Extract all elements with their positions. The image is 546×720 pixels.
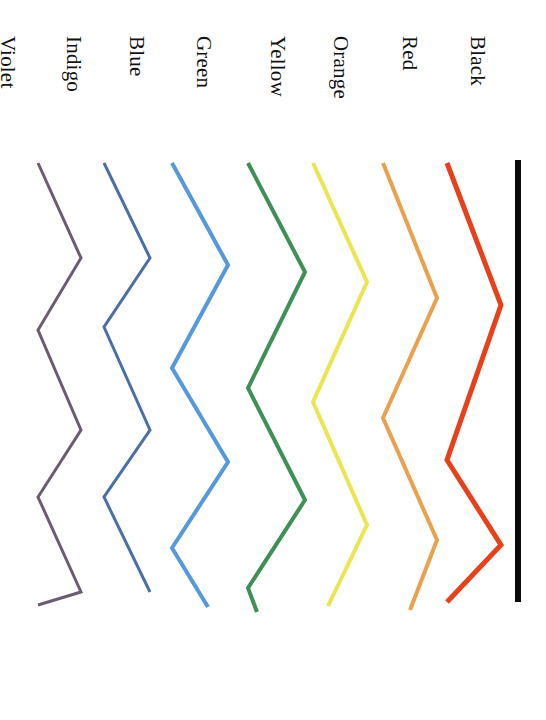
series-line-orange	[383, 163, 437, 610]
line-chart-plot	[0, 0, 546, 720]
series-line-yellow	[313, 163, 367, 606]
series-line-red	[447, 163, 501, 602]
series-line-blue	[172, 163, 228, 607]
figure-canvas: Violet Indigo Blue Green Yellow Orange R…	[0, 0, 546, 720]
series-line-violet	[38, 163, 81, 605]
series-line-indigo	[104, 163, 150, 592]
series-line-green	[248, 163, 305, 612]
